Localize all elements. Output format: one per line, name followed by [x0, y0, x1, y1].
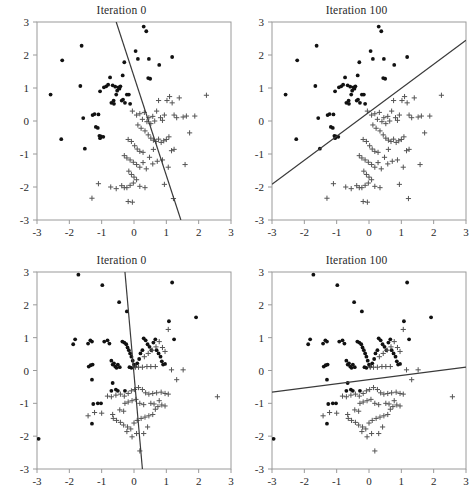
data-point-dot — [371, 57, 375, 61]
y-tick-label: -1 — [20, 397, 29, 409]
data-point-plus — [192, 113, 197, 118]
data-point-dot — [112, 361, 116, 365]
data-point-dot — [49, 93, 53, 97]
data-point-plus — [404, 367, 409, 372]
data-point-dot — [388, 337, 392, 341]
data-point-plus — [154, 109, 159, 114]
data-point-plus — [397, 391, 402, 396]
data-point-plus — [388, 407, 393, 412]
x-tick-label: -2 — [300, 475, 309, 487]
x-tick-label: 2 — [196, 226, 202, 238]
data-point-dot — [108, 342, 112, 346]
data-point-dot — [122, 60, 126, 64]
data-point-plus — [166, 327, 171, 332]
panel-title-bottom-right: Iteration 100 — [241, 254, 472, 266]
data-point-dot — [108, 76, 112, 80]
data-point-plus — [150, 114, 155, 119]
data-point-dot — [152, 341, 156, 345]
data-point-plus — [187, 130, 192, 135]
data-point-plus — [137, 448, 142, 453]
plot-panel-bottom-left: Iteration 0-3-2-10123-3-2-10123 — [6, 254, 237, 501]
data-point-plus — [92, 410, 97, 415]
data-point-plus — [320, 413, 325, 418]
data-point-plus — [401, 327, 406, 332]
data-point-plus — [388, 364, 393, 369]
data-point-plus — [121, 409, 126, 414]
data-point-dot — [370, 361, 374, 365]
data-point-plus — [381, 413, 386, 418]
data-point-plus — [113, 393, 118, 398]
data-point-dot — [144, 338, 148, 342]
data-point-dot — [115, 366, 119, 370]
data-point-plus — [105, 394, 110, 399]
data-point-plus — [374, 126, 379, 131]
data-point-dot — [71, 342, 75, 346]
data-point-dot — [144, 29, 148, 33]
data-point-plus — [141, 402, 146, 407]
data-point-dot — [128, 365, 132, 369]
data-point-dot — [359, 342, 363, 346]
data-point-dot — [106, 338, 110, 342]
data-point-dot — [341, 83, 345, 87]
data-point-dot — [379, 338, 383, 342]
data-point-dot — [328, 112, 332, 116]
data-point-plus — [402, 94, 407, 99]
data-point-dot — [321, 342, 325, 346]
data-point-dot — [163, 362, 167, 366]
data-point-plus — [375, 117, 380, 122]
data-point-plus — [383, 364, 388, 369]
data-point-plus — [134, 431, 139, 436]
data-point-plus — [340, 394, 345, 399]
y-tick-label: 0 — [259, 365, 265, 377]
data-point-dot — [106, 83, 110, 87]
data-point-dot — [102, 340, 106, 344]
data-point-dot — [374, 352, 378, 356]
data-point-dot — [347, 102, 351, 106]
data-point-dot — [141, 348, 145, 352]
data-point-plus — [409, 115, 414, 120]
data-point-plus — [153, 407, 158, 412]
data-point-plus — [377, 354, 382, 359]
data-point-dot — [194, 315, 198, 319]
data-point-plus — [380, 424, 385, 429]
data-point-dot — [109, 389, 113, 393]
data-point-plus — [162, 403, 167, 408]
data-point-dot — [392, 63, 396, 67]
plot-panel-bottom-right: Iteration 100-3-2-10123-3-2-10123 — [241, 254, 472, 501]
data-point-plus — [377, 128, 382, 133]
data-point-dot — [160, 359, 164, 363]
y-tick-label: -1 — [255, 397, 264, 409]
data-point-dot — [379, 29, 383, 33]
data-point-dot — [382, 57, 386, 61]
data-point-plus — [142, 185, 147, 190]
data-point-plus — [181, 114, 186, 119]
data-point-dot — [357, 60, 361, 64]
data-point-plus — [140, 365, 145, 370]
data-point-plus — [146, 351, 151, 356]
data-point-dot — [398, 362, 402, 366]
x-tick-label: -2 — [300, 226, 309, 238]
data-point-plus — [110, 412, 115, 417]
data-point-dot — [111, 381, 115, 385]
data-point-plus — [364, 388, 369, 393]
y-tick-label: -2 — [20, 181, 29, 193]
data-point-plus — [137, 401, 142, 406]
data-point-dot — [366, 359, 370, 363]
data-point-plus — [150, 412, 155, 417]
data-point-plus — [364, 172, 369, 177]
data-point-dot — [147, 57, 151, 61]
data-point-plus — [162, 349, 167, 354]
data-point-dot — [392, 352, 396, 356]
data-point-dot — [363, 365, 367, 369]
data-point-plus — [419, 113, 424, 118]
x-tick-label: -3 — [267, 475, 277, 487]
data-point-dot — [352, 300, 356, 304]
y-tick-label: 0 — [24, 115, 30, 127]
data-point-plus — [157, 339, 162, 344]
data-point-dot — [362, 93, 366, 97]
data-point-plus — [139, 126, 144, 131]
data-point-dot — [148, 77, 152, 81]
data-point-plus — [155, 159, 160, 164]
data-point-plus — [215, 394, 220, 399]
data-point-plus — [169, 367, 174, 372]
